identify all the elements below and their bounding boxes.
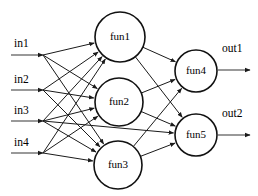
edge-in4-to-fun3 xyxy=(43,153,93,161)
network-diagram-svg: fun1fun2fun3fun4fun5 in1in2in3in4out1out… xyxy=(0,0,258,196)
node-fun3[interactable]: fun3 xyxy=(94,141,142,189)
network-diagram-canvas: fun1fun2fun3fun4fun5 in1in2in3in4out1out… xyxy=(0,0,258,196)
input-label-in3: in3 xyxy=(14,104,29,116)
output-label-out1: out1 xyxy=(222,42,243,54)
output-label-out2: out2 xyxy=(222,107,243,119)
node-label-fun1: fun1 xyxy=(110,30,130,42)
edge-fun2-to-fun5 xyxy=(141,111,175,126)
node-label-fun3: fun3 xyxy=(108,158,129,170)
node-fun2[interactable]: fun2 xyxy=(95,78,143,126)
edge-in1-to-fun1 xyxy=(43,43,94,55)
input-label-in2: in2 xyxy=(14,73,29,85)
node-label-fun5: fun5 xyxy=(186,128,207,140)
edge-fun1-to-fun4 xyxy=(143,47,176,62)
node-fun4[interactable]: fun4 xyxy=(175,50,217,92)
input-label-in1: in1 xyxy=(14,37,29,49)
input-label-in4: in4 xyxy=(14,136,29,148)
node-fun1[interactable]: fun1 xyxy=(95,12,145,62)
edge-in3-to-fun1 xyxy=(43,57,102,121)
node-fun5[interactable]: fun5 xyxy=(175,114,217,156)
nodes-layer: fun1fun2fun3fun4fun5 xyxy=(94,12,217,189)
node-label-fun2: fun2 xyxy=(109,95,129,107)
node-label-fun4: fun4 xyxy=(186,64,207,76)
edge-fun3-to-fun5 xyxy=(140,143,175,156)
edge-fun2-to-fun4 xyxy=(141,79,175,93)
